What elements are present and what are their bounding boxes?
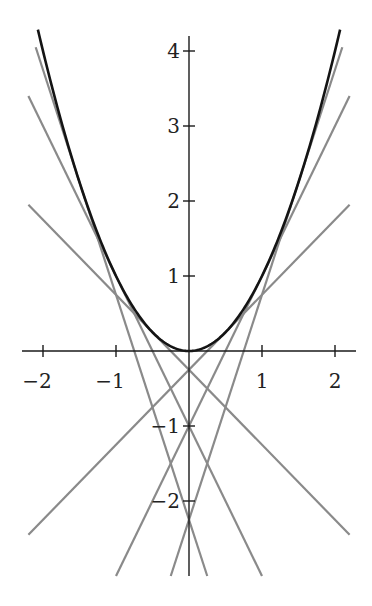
x-tick-label: −2 <box>22 369 51 393</box>
tangent-line <box>28 96 262 576</box>
axes <box>22 36 356 576</box>
y-tick-label: −2 <box>151 489 180 513</box>
x-tick-label: 2 <box>329 369 342 393</box>
y-tick-label: 2 <box>167 189 180 213</box>
x-tick-label: 1 <box>256 369 269 393</box>
y-tick-label: −1 <box>151 414 180 438</box>
y-tick-label: 1 <box>167 264 180 288</box>
y-tick-label: 3 <box>167 114 180 138</box>
tangent-lines-chart: −2−112 −2−11234 <box>0 0 372 606</box>
x-tick-label: −1 <box>95 369 124 393</box>
x-ticks: −2−112 <box>22 345 341 393</box>
y-tick-label: 4 <box>167 39 180 63</box>
